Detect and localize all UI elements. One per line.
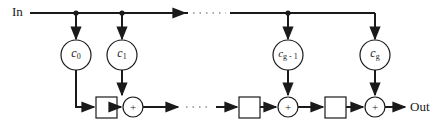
input-bus (30, 10, 375, 15)
coef-label-g-minus-1: cg - 1 (278, 47, 298, 63)
input-label: In (12, 5, 23, 18)
coefficient-nodes (61, 40, 390, 70)
fir-filter-block-diagram: In Out c0 c1 cg - 1 cg + + + (0, 0, 446, 127)
adder-symbol-g-1: + (285, 102, 291, 113)
delay-box-1 (96, 97, 117, 118)
adder-symbol-1: + (130, 102, 136, 113)
delay-box-2 (239, 97, 260, 118)
coef-label-1: c1 (117, 47, 126, 63)
output-label: Out (410, 100, 430, 113)
adder-symbol-g: + (372, 102, 378, 113)
tap-lines (76, 13, 375, 39)
coef-label-g: cg (370, 47, 379, 63)
diagram-canvas (0, 0, 446, 127)
coef-label-0: c0 (71, 47, 80, 63)
delay-box-3 (325, 97, 346, 118)
